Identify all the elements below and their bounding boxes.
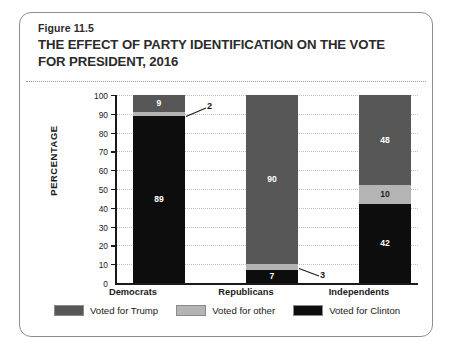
y-tick-label-30: 30 [80,223,108,233]
y-tick-label-100: 100 [80,91,108,101]
legend-label: Voted for other [212,305,275,316]
x-tick-label-democrats: Democrats [78,287,188,297]
x-axis-line [115,283,418,285]
y-tick-label-40: 40 [80,204,108,214]
legend-item-trump[interactable]: Voted for Trump [54,305,158,316]
y-tick-label-10: 10 [80,260,108,270]
segment-independents-other: 10 [359,185,411,204]
figure-card: Figure 11.5 THE EFFECT OF PARTY IDENTIFI… [19,12,433,337]
legend-item-other[interactable]: Voted for other [176,305,275,316]
legend-swatch-icon [176,305,206,316]
y-tick-label-80: 80 [80,129,108,139]
segment-value: 90 [267,175,277,184]
segment-value: 42 [380,239,390,248]
bar-democrats[interactable]: 9 89 [133,95,185,283]
legend-swatch-icon [293,305,323,316]
title-divider [26,81,426,83]
x-tick-label-independents: Independents [304,287,414,297]
callout-democrats-other: 2 [207,101,212,111]
segment-value: 89 [154,195,164,204]
segment-republicans-trump: 90 [246,95,298,264]
bar-independents[interactable]: 48 10 42 [359,95,411,283]
figure-number: Figure 11.5 [38,22,94,34]
y-tick-label-50: 50 [80,185,108,195]
y-tick-label-20: 20 [80,241,108,251]
legend-label: Voted for Trump [90,305,158,316]
bar-republicans[interactable]: 90 7 [246,95,298,283]
figure-title: THE EFFECT OF PARTY IDENTIFICATION ON TH… [38,37,416,70]
segment-democrats-trump: 9 [133,95,185,112]
chart-plot: PERCENTAGE 100 90 80 70 60 50 40 30 20 1… [20,87,434,299]
segment-value: 48 [380,136,390,145]
y-tick-label-60: 60 [80,166,108,176]
y-tick-label-70: 70 [80,147,108,157]
segment-value: 9 [157,99,162,108]
callout-republicans-other: 3 [320,270,325,280]
legend-item-clinton[interactable]: Voted for Clinton [293,305,400,316]
segment-independents-clinton: 42 [359,204,411,283]
y-tick-label-90: 90 [80,110,108,120]
y-axis-title: PERCENTAGE [48,101,59,221]
segment-value: 7 [270,272,275,281]
segment-republicans-clinton: 7 [246,270,298,283]
segment-democrats-clinton: 89 [133,116,185,283]
legend-swatch-icon [54,305,84,316]
x-tick-label-republicans: Republicans [191,287,301,297]
legend-label: Voted for Clinton [329,305,400,316]
bars-container: 9 89 90 7 48 [116,95,416,283]
segment-value: 10 [380,190,390,199]
chart-legend: Voted for Trump Voted for other Voted fo… [20,305,434,316]
segment-independents-trump: 48 [359,95,411,185]
